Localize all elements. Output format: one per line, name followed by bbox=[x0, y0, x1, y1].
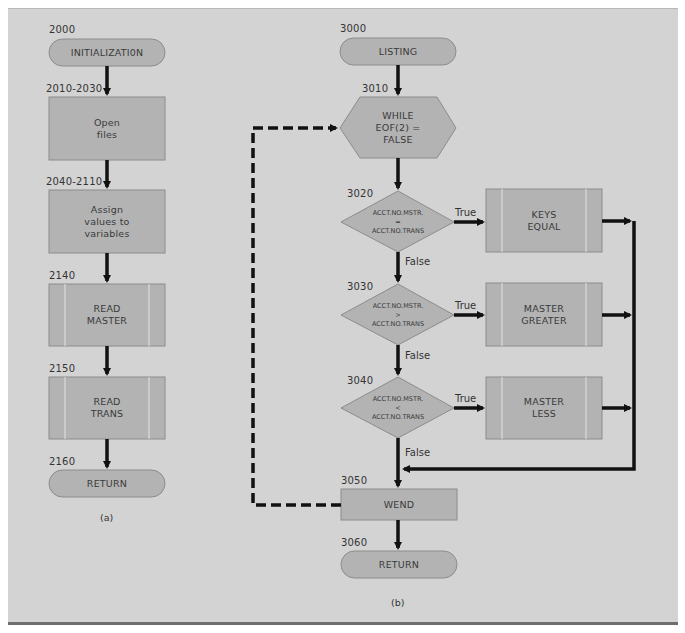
true-label-3040: True bbox=[455, 393, 476, 404]
node-id-2040-2110: 2040-2110 bbox=[46, 176, 102, 187]
label-open-files: Open files bbox=[49, 97, 165, 160]
label-assign-values: Assign values to variables bbox=[49, 190, 165, 253]
false-label-3020: False bbox=[405, 256, 430, 267]
label-read-trans: READ TRANS bbox=[49, 377, 165, 439]
node-id-3060: 3060 bbox=[341, 537, 367, 548]
true-label-3020: True bbox=[455, 207, 476, 218]
label-decision-3040: ACCT.NO.MSTR. < ACCT.NO.TRANS bbox=[350, 381, 446, 435]
node-id-2010-2030: 2010-2030 bbox=[46, 83, 102, 94]
caption-b: (b) bbox=[391, 597, 404, 608]
label-master-greater: MASTER GREATER bbox=[486, 283, 602, 346]
false-label-3040: False bbox=[405, 447, 430, 458]
label-return-b: RETURN bbox=[341, 551, 457, 578]
node-id-2160: 2160 bbox=[49, 456, 75, 467]
label-master-less: MASTER LESS bbox=[486, 377, 602, 439]
caption-a: (a) bbox=[100, 512, 113, 523]
label-listing: LISTING bbox=[340, 38, 456, 65]
node-id-3010: 3010 bbox=[362, 83, 388, 94]
label-decision-3020: ACCT.NO.MSTR. = ACCT.NO.TRANS bbox=[350, 195, 446, 249]
false-label-3030: False bbox=[405, 350, 430, 361]
label-read-master: READ MASTER bbox=[49, 284, 165, 346]
label-wend: WEND bbox=[341, 489, 457, 520]
node-id-2140: 2140 bbox=[49, 270, 75, 281]
label-return-a: RETURN bbox=[49, 470, 165, 497]
node-id-3000: 3000 bbox=[340, 23, 366, 34]
node-id-2000: 2000 bbox=[49, 24, 75, 35]
true-label-3030: True bbox=[455, 300, 476, 311]
label-decision-3030: ACCT.NO.MSTR. > ACCT.NO.TRANS bbox=[350, 288, 446, 342]
label-while-eof: WHILE EOF(2) = FALSE bbox=[350, 97, 446, 158]
label-keys-equal: KEYS EQUAL bbox=[486, 189, 602, 252]
label-initialization: INITIALIZATI0N bbox=[49, 39, 165, 66]
node-id-3050: 3050 bbox=[341, 475, 367, 486]
node-id-2150: 2150 bbox=[49, 363, 75, 374]
